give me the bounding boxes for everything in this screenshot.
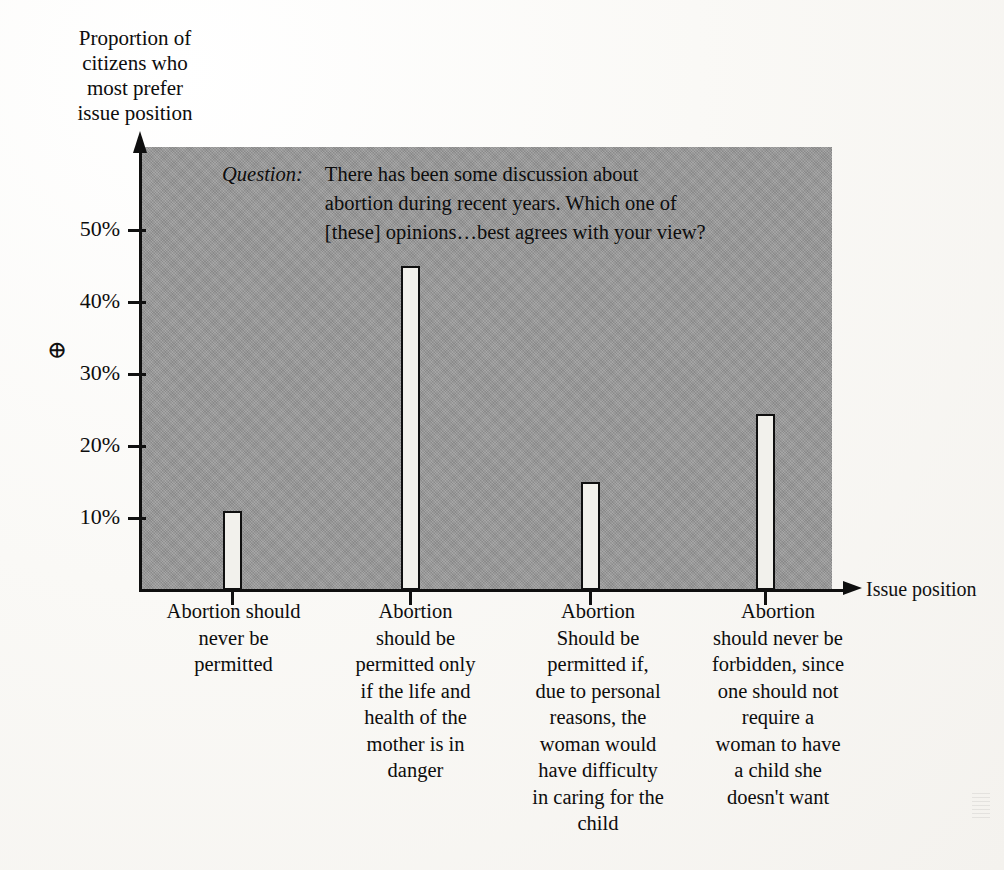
bar	[401, 266, 420, 590]
x-category-label: Abortion should never be permitted	[126, 598, 341, 678]
y-tick-label: 50%	[50, 218, 120, 240]
y-tick-label: 10%	[50, 506, 120, 528]
figure-page: Proportion of citizens who most prefer i…	[0, 0, 1004, 870]
scan-artifact	[972, 792, 990, 818]
y-tick-mark	[128, 373, 146, 376]
bar	[581, 482, 600, 590]
question-text: There has been some discussion about abo…	[325, 160, 812, 247]
y-tick-mark	[128, 301, 146, 304]
y-tick-mark	[128, 517, 146, 520]
x-axis-title: Issue position	[866, 578, 977, 600]
plot-wrapper: Issue position 50%40%30%20%10% Question:…	[0, 0, 1004, 870]
bar	[223, 511, 242, 590]
question-annotation: Question: There has been some discussion…	[222, 160, 812, 247]
bar	[756, 414, 775, 590]
x-category-label: Abortion Should be permitted if, due to …	[498, 598, 698, 837]
y-axis-arrowhead-icon	[133, 131, 147, 153]
x-axis-arrowhead-icon	[843, 581, 862, 595]
y-axis-line	[139, 150, 142, 591]
x-category-label: Abortion should be permitted only if the…	[328, 598, 503, 784]
y-tick-mark	[128, 445, 146, 448]
x-category-label: Abortion should never be forbidden, sinc…	[672, 598, 884, 810]
y-tick-mark	[128, 229, 146, 232]
y-tick-label: 30%	[50, 362, 120, 384]
x-axis-line	[139, 589, 846, 592]
y-tick-label: 40%	[50, 290, 120, 312]
y-tick-label: 20%	[50, 434, 120, 456]
question-label: Question:	[222, 160, 325, 189]
